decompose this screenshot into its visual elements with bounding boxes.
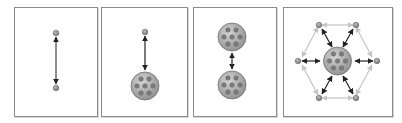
node — [142, 29, 148, 35]
node-bottom — [53, 85, 59, 91]
node-top — [53, 30, 59, 36]
hex-node-bottom-right — [353, 95, 359, 101]
cluster-node — [131, 72, 159, 100]
hex-node-left — [295, 58, 301, 64]
central-cluster-node — [324, 47, 352, 75]
hex-node-top-right — [353, 22, 359, 28]
hex-node-top-left — [316, 22, 322, 28]
cluster-node-bottom — [218, 71, 246, 99]
diagram-canvas — [0, 0, 402, 123]
hex-node-bottom-left — [316, 95, 322, 101]
cluster-node-top — [218, 23, 246, 51]
hex-node-right — [374, 58, 380, 64]
